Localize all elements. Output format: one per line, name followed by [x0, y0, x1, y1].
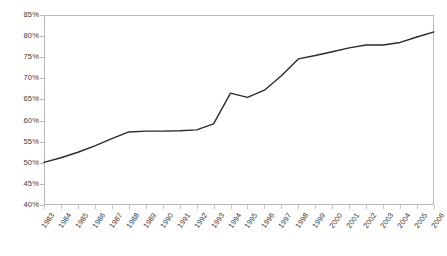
x-axis-tick — [315, 205, 316, 209]
x-axis-tick — [349, 205, 350, 209]
x-axis-tick — [298, 205, 299, 209]
y-axis-label: 75% — [5, 53, 39, 61]
x-axis-tick — [163, 205, 164, 209]
x-axis-tick — [366, 205, 367, 209]
x-axis-tick — [332, 205, 333, 209]
y-axis-label: 45% — [5, 180, 39, 188]
x-axis-tick — [281, 205, 282, 209]
x-axis-tick — [383, 205, 384, 209]
x-axis-tick — [95, 205, 96, 209]
y-axis-label: 70% — [5, 74, 39, 82]
x-axis-tick — [129, 205, 130, 209]
x-axis-tick — [247, 205, 248, 209]
y-axis-label: 80% — [5, 32, 39, 40]
x-axis-tick — [146, 205, 147, 209]
y-axis-label: 65% — [5, 95, 39, 103]
y-axis-label: 40% — [5, 201, 39, 209]
x-axis-tick — [197, 205, 198, 209]
line-chart: 85%80%75%70%65%60%55%50%45%40% 198319841… — [0, 0, 447, 256]
x-axis-tick — [400, 205, 401, 209]
x-axis-tick — [434, 205, 435, 209]
x-axis-tick — [231, 205, 232, 209]
x-axis-tick — [264, 205, 265, 209]
y-axis-label: 85% — [5, 11, 39, 19]
x-axis-tick — [61, 205, 62, 209]
plot-area — [44, 15, 434, 205]
y-axis-label: 55% — [5, 138, 39, 146]
x-axis-tick — [78, 205, 79, 209]
x-axis-tick — [44, 205, 45, 209]
x-axis-tick — [112, 205, 113, 209]
x-axis-tick — [214, 205, 215, 209]
x-axis-tick — [417, 205, 418, 209]
y-axis-label: 50% — [5, 159, 39, 167]
y-axis-label: 60% — [5, 117, 39, 125]
x-axis-tick — [180, 205, 181, 209]
